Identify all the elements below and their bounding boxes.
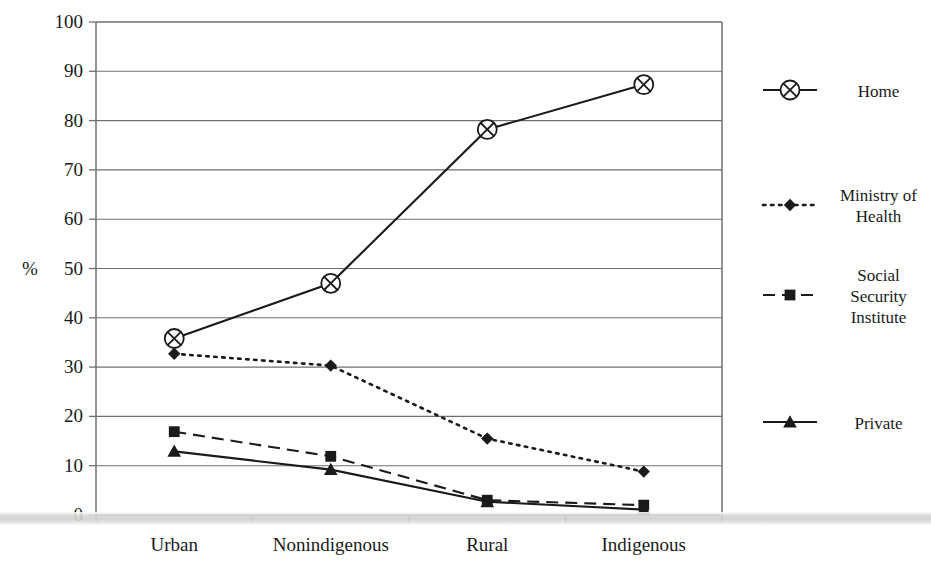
legend-marker-1 — [763, 81, 817, 100]
series-4 — [167, 445, 650, 515]
y-axis-unit-label: % — [22, 258, 38, 280]
y-axis-tick-label: 10 — [41, 456, 83, 475]
x-axis-tick-label: Rural — [397, 535, 577, 554]
data-point-marker — [325, 451, 336, 462]
x-axis-tick-label: Nonindigenous — [241, 535, 421, 554]
series-line — [174, 432, 644, 505]
legend-item-label: Social Security Institute — [826, 265, 931, 328]
series-line — [174, 451, 644, 509]
legend-marker-3 — [763, 290, 817, 301]
legend-marker-2 — [763, 199, 817, 211]
y-axis-tick-label: 80 — [41, 111, 83, 130]
y-axis-tick-label: 50 — [41, 259, 83, 278]
legend-item-label: Home — [826, 81, 931, 102]
x-axis-tick-label: Urban — [84, 535, 264, 554]
data-point-marker — [634, 75, 653, 94]
data-point-marker — [481, 432, 493, 444]
legend-marker-glyph — [785, 290, 796, 301]
legend-item-label: Private — [826, 413, 931, 434]
data-point-marker — [167, 445, 181, 457]
data-point-marker — [325, 359, 337, 371]
y-axis-tick-label: 70 — [41, 160, 83, 179]
y-axis-tick-label: 90 — [41, 61, 83, 80]
x-axis-tick-label: Indigenous — [554, 535, 734, 554]
data-point-marker — [478, 120, 497, 139]
data-point-marker — [165, 329, 184, 348]
y-axis-tick-label: 20 — [41, 406, 83, 425]
y-axis-tick-label: 30 — [41, 357, 83, 376]
data-point-marker — [321, 274, 340, 293]
series-line — [174, 354, 644, 472]
legend-marker-glyph — [781, 81, 800, 100]
data-series-group — [165, 75, 654, 515]
data-point-marker — [638, 465, 650, 477]
legend-marker-glyph — [784, 199, 796, 211]
series-3 — [169, 426, 649, 510]
series-1 — [165, 75, 654, 348]
series-line — [174, 85, 644, 339]
legend-marker-4 — [763, 415, 817, 427]
y-axis-tick-label: 0 — [41, 505, 83, 524]
data-point-marker — [168, 348, 180, 360]
line-chart-plot — [0, 0, 931, 570]
data-point-marker — [169, 426, 180, 437]
y-axis-tick-label: 40 — [41, 308, 83, 327]
y-axis-tick-label: 60 — [41, 209, 83, 228]
x-tick-marks-group — [96, 515, 722, 523]
legend-item-label: Ministry of Health — [826, 185, 931, 227]
y-axis-tick-label: 100 — [41, 12, 83, 31]
legend-markers-group — [763, 81, 817, 428]
chart-container: 0102030405060708090100 UrbanNonindigenou… — [0, 0, 931, 570]
